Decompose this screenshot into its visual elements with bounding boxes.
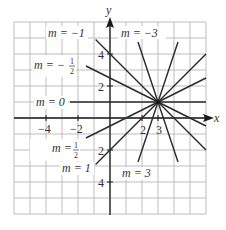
slope-diagram: y x −4 −2 2 3 4 2 2 4 m = −1 m = −3 m = … xyxy=(0,0,226,230)
y-tick-label: 2 xyxy=(98,80,104,94)
label-m-1: m = 1 xyxy=(62,161,91,175)
y-tick-label: 2 xyxy=(98,144,104,158)
frac-num: 1 xyxy=(70,57,74,66)
label-m-half: m = xyxy=(52,141,72,155)
label-m-3: m = 3 xyxy=(122,166,151,180)
slope-line xyxy=(96,40,206,150)
x-tick-label: −2 xyxy=(70,122,83,136)
label-m-neg-half: m = − xyxy=(34,58,65,72)
label-m-0: m = 0 xyxy=(36,95,65,109)
slope-line xyxy=(86,78,206,138)
label-m-neg1: m = −1 xyxy=(48,26,85,40)
axes xyxy=(14,17,214,215)
y-tick-label: 4 xyxy=(98,48,104,62)
point-3-1 xyxy=(156,100,160,104)
slope-line xyxy=(96,54,206,164)
x-tick-label: 3 xyxy=(156,123,162,137)
frac-den: 2 xyxy=(74,151,78,160)
frac-num: 1 xyxy=(74,141,78,150)
label-m-neg3: m = −3 xyxy=(121,26,158,40)
frac-den: 2 xyxy=(70,67,74,76)
x-tick-label: 2 xyxy=(140,123,146,137)
x-tick-label: −4 xyxy=(38,122,51,136)
x-axis-label: x xyxy=(213,111,220,125)
slope-line xyxy=(86,66,206,126)
slope-lines xyxy=(70,40,206,165)
y-tick-label: 4 xyxy=(98,176,104,190)
y-axis-label: y xyxy=(105,3,112,17)
